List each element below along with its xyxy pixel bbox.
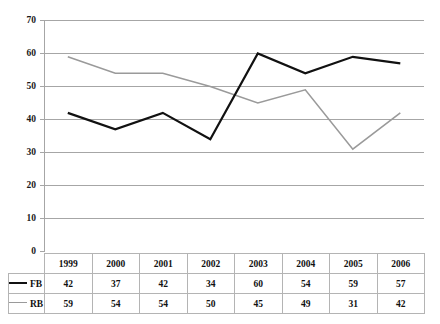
table-cell-rb-2005: 31	[330, 294, 378, 314]
legend-line-swatch-fb-icon	[9, 282, 27, 284]
table-header-2002: 2002	[187, 254, 235, 274]
table-header-2004: 2004	[282, 254, 330, 274]
legend-entry-fb: FB	[9, 274, 45, 294]
table-corner-cell	[9, 254, 45, 274]
table-header-2000: 2000	[92, 254, 140, 274]
table-cell-fb-2002: 34	[187, 274, 235, 294]
table-cell-fb-2006: 57	[377, 274, 425, 294]
table-cell-rb-1999: 59	[45, 294, 93, 314]
table-cell-fb-2001: 42	[140, 274, 188, 294]
data-table-wrapper: 1999 2000 2001 2002 2003 2004 2005 2006 …	[8, 253, 424, 311]
table-cell-fb-2003: 60	[235, 274, 283, 294]
table-header-2001: 2001	[140, 254, 188, 274]
legend-label-fb: FB	[30, 279, 42, 289]
legend-label-rb: RB	[30, 299, 43, 309]
table-header-2006: 2006	[377, 254, 425, 274]
table-cell-rb-2001: 54	[140, 294, 188, 314]
table-cell-rb-2006: 42	[377, 294, 425, 314]
plot-svg	[0, 0, 440, 256]
series-line-rb	[68, 57, 401, 149]
plot-area: 70 60 50 40 30 20 10 0	[0, 0, 440, 256]
series-line-fb	[68, 54, 401, 140]
gridlines	[44, 21, 424, 219]
table-header-row: 1999 2000 2001 2002 2003 2004 2005 2006	[9, 254, 425, 274]
table-row-rb: RB 59 54 54 50 45 49 31 42	[9, 294, 425, 314]
table-cell-rb-2004: 49	[282, 294, 330, 314]
table-cell-rb-2000: 54	[92, 294, 140, 314]
table-cell-fb-2005: 59	[330, 274, 378, 294]
data-table: 1999 2000 2001 2002 2003 2004 2005 2006 …	[8, 253, 425, 314]
table-header-2005: 2005	[330, 254, 378, 274]
table-cell-rb-2003: 45	[235, 294, 283, 314]
table-row-fb: FB 42 37 42 34 60 54 59 57	[9, 274, 425, 294]
legend-entry-rb: RB	[9, 294, 45, 314]
table-cell-fb-2000: 37	[92, 274, 140, 294]
table-cell-fb-2004: 54	[282, 274, 330, 294]
line-chart-with-data-table: 70 60 50 40 30 20 10 0	[0, 0, 440, 324]
table-header-2003: 2003	[235, 254, 283, 274]
legend-line-swatch-rb-icon	[9, 302, 27, 303]
table-header-1999: 1999	[45, 254, 93, 274]
y-axis-ticks	[40, 21, 44, 252]
table-cell-fb-1999: 42	[45, 274, 93, 294]
table-cell-rb-2002: 50	[187, 294, 235, 314]
